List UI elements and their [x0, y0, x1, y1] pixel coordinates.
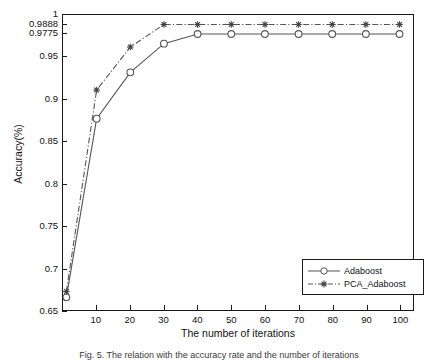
legend-item-pca-adaboost: PCA_Adaboost [307, 277, 418, 290]
x-tick-label: 50 [226, 315, 237, 325]
data-point-marker [295, 21, 302, 28]
data-point-marker [262, 21, 269, 28]
legend: Adaboost PCA_Adaboost [302, 259, 424, 295]
data-point-marker [93, 87, 100, 94]
x-axis-title: The number of iterations [62, 327, 414, 339]
series-line [66, 24, 399, 291]
data-point-marker [194, 21, 201, 28]
y-tick-label: 0.75 [40, 221, 59, 231]
legend-label-adaboost: Adaboost [344, 266, 382, 276]
data-point-marker [295, 31, 302, 38]
y-tick-label: 1 [53, 9, 58, 19]
legend-swatch-solid-circle-icon [307, 265, 341, 277]
y-tick-mark [62, 311, 67, 312]
y-tick-label: 0.7 [45, 264, 58, 274]
x-tick-label: 90 [361, 315, 372, 325]
data-point-marker [161, 21, 168, 28]
figure-caption: Fig. 5. The relation with the accuracy r… [24, 350, 414, 360]
data-point-marker [127, 69, 134, 76]
data-point-marker [262, 31, 269, 38]
series-line [66, 34, 399, 297]
data-point-marker [363, 31, 370, 38]
data-point-marker [161, 40, 168, 47]
data-point-marker [363, 21, 370, 28]
data-point-marker [329, 21, 336, 28]
y-tick-label: 0.8 [45, 179, 58, 189]
legend-label-pca-adaboost: PCA_Adaboost [344, 279, 406, 289]
data-point-marker [396, 31, 403, 38]
data-point-marker [194, 31, 201, 38]
x-tick-label: 40 [192, 315, 203, 325]
y-tick-label: 0.65 [40, 306, 59, 316]
legend-swatch-dashdot-star-icon [307, 278, 341, 290]
data-point-marker [63, 288, 70, 295]
series-pca-adaboost [63, 21, 403, 295]
data-point-marker [63, 294, 70, 301]
x-tick-label: 80 [327, 315, 338, 325]
legend-item-adaboost: Adaboost [307, 264, 418, 277]
y-tick-label: 0.95 [40, 51, 59, 61]
data-point-marker [93, 115, 100, 122]
y-axis-title: Accuracy(%) [12, 84, 24, 224]
x-tick-label: 20 [124, 315, 135, 325]
x-tick-label: 10 [91, 315, 102, 325]
data-point-marker [127, 44, 134, 51]
y-tick-label: 0.9888 [29, 19, 58, 29]
y-tick-label: 0.9775 [29, 28, 58, 38]
x-tick-label: 100 [393, 315, 409, 325]
y-tick-label: 0.9 [45, 94, 58, 104]
data-point-marker [396, 21, 403, 28]
data-point-marker [228, 21, 235, 28]
data-point-marker [228, 31, 235, 38]
y-tick-label: 0.85 [40, 136, 59, 146]
data-point-marker [329, 31, 336, 38]
x-tick-label: 70 [294, 315, 305, 325]
x-tick-label: 30 [158, 315, 169, 325]
x-tick-label: 60 [260, 315, 271, 325]
